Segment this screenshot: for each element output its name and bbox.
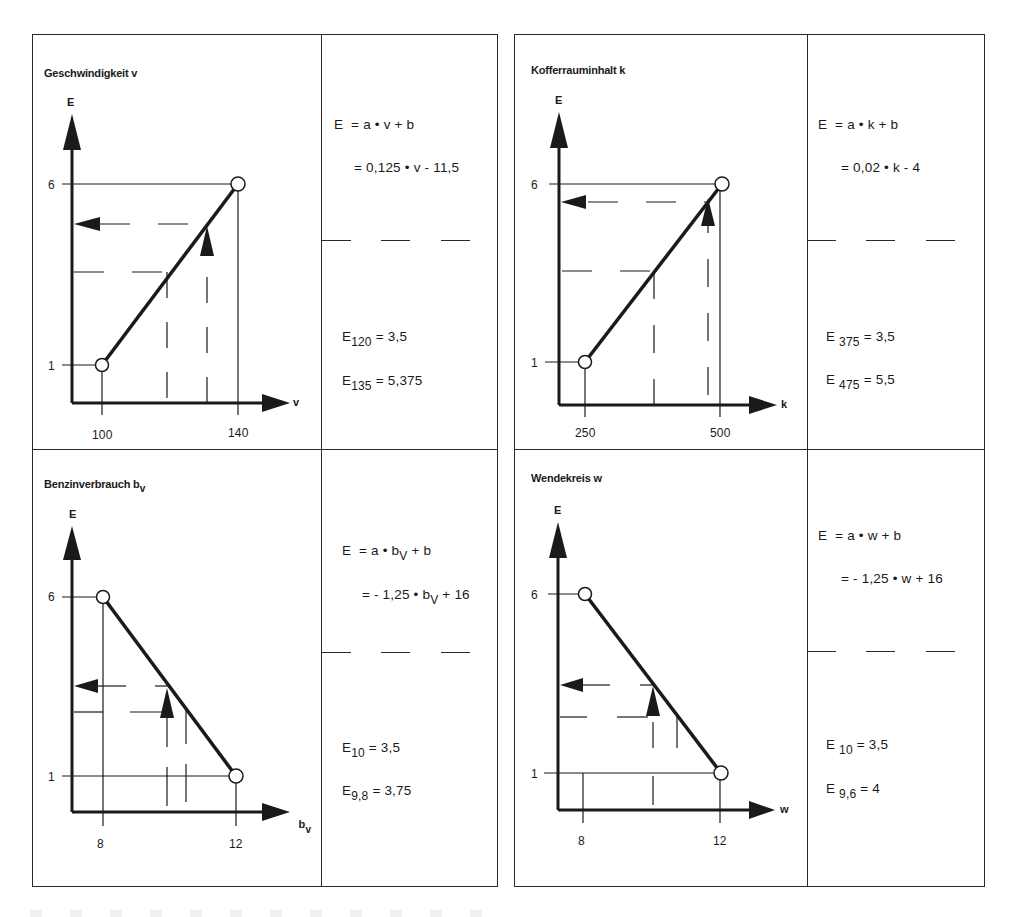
- formula-general: E = a • w + b: [818, 528, 901, 543]
- y-axis-arrow-icon: [549, 522, 567, 558]
- formula-specific: = - 1,25 • w + 16: [841, 571, 943, 586]
- left-arrow-icon: [560, 678, 583, 692]
- result-line: E 9,6 = 4: [818, 766, 880, 801]
- dashed-separator: [926, 651, 955, 652]
- dashed-separator: [807, 651, 836, 652]
- y-tick-label: 1: [531, 767, 538, 781]
- y-tick-label: 6: [531, 588, 538, 602]
- data-point: [579, 588, 592, 601]
- data-point: [714, 766, 728, 780]
- x-tick-label: 8: [578, 834, 585, 848]
- dashed-separator: [866, 651, 895, 652]
- x-axis-label: w: [780, 803, 789, 815]
- cropped-caption-fragment: [30, 910, 510, 917]
- x-axis-arrow-icon: [749, 801, 775, 819]
- x-tick-label: 12: [713, 834, 727, 848]
- y-axis-label: E: [554, 504, 562, 516]
- result-line: E 10 = 3,5: [818, 722, 888, 757]
